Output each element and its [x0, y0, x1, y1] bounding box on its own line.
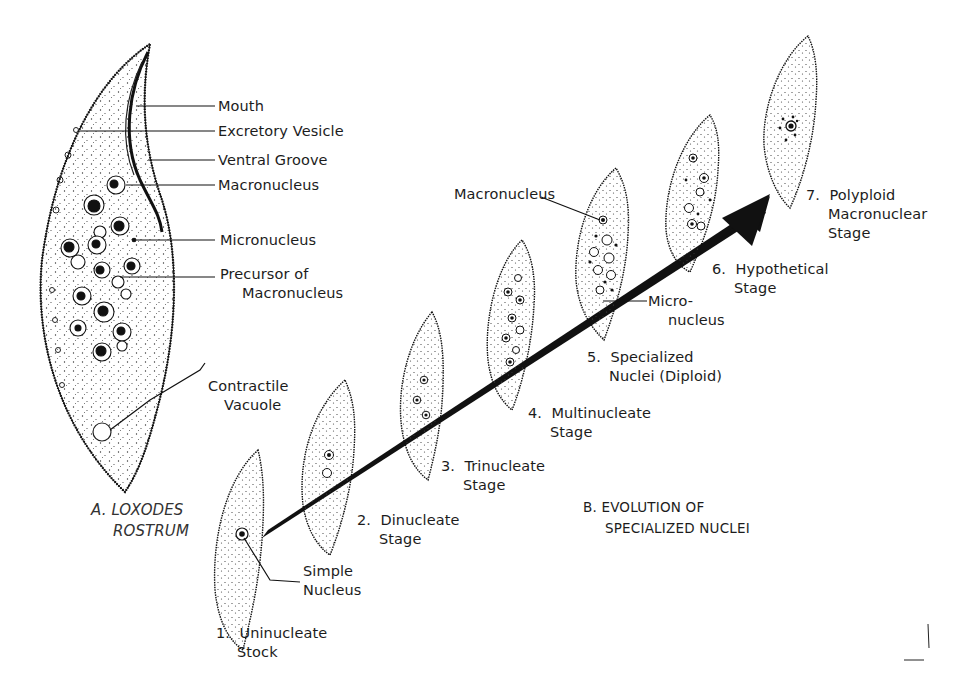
part-a-title-line1: A. LOXODES: [91, 500, 189, 521]
label-contractile-vacuole: Contractile Vacuole: [208, 377, 288, 415]
label-simple-nucleus: Simple Nucleus: [303, 562, 361, 600]
label-macronucleus-b: Macronucleus: [454, 185, 555, 204]
stage-6-line2: Stage: [712, 279, 829, 298]
part-b-title: B. EVOLUTION OF SPECIALIZED NUCLEI: [583, 497, 750, 539]
stage-1-line2: Stock: [216, 643, 327, 662]
contractile-line2: Vacuole: [208, 396, 288, 415]
stage-4-organism: [487, 240, 534, 410]
label-mouth: Mouth: [218, 97, 264, 116]
stage-2-line2: Stage: [357, 530, 459, 549]
stage-3-line1: Trinucleate: [464, 458, 545, 474]
label-precursor-of-macronucleus: Precursor of Macronucleus: [220, 265, 343, 303]
stage-2-label: 2. Dinucleate Stage: [357, 511, 459, 549]
diagram-canvas: [0, 0, 972, 688]
simple-nucleus-line2: Nucleus: [303, 581, 361, 600]
stage-6-line1: Hypothetical: [735, 261, 828, 277]
stage-5-line2: Nuclei (Diploid): [587, 367, 722, 386]
stage-5-label: 5. Specialized Nuclei (Diploid): [587, 348, 722, 386]
stage-6-label: 6. Hypothetical Stage: [712, 260, 829, 298]
stage-4-number: 4.: [528, 405, 542, 421]
part-a-title-line2: ROSTRUM: [91, 521, 189, 542]
stage-7-line1: Polyploid: [829, 187, 895, 203]
stage-7-line3: Stage: [806, 224, 927, 243]
stage-6-number: 6.: [712, 261, 726, 277]
micronucleus-line2: nucleus: [648, 311, 725, 330]
stage-4-label: 4. Multinucleate Stage: [528, 404, 651, 442]
stage-1-label: 1. Uninucleate Stock: [216, 624, 327, 662]
label-macronucleus-a: Macronucleus: [218, 176, 319, 195]
stage-1-number: 1.: [216, 625, 230, 641]
stage-5-number: 5.: [587, 349, 601, 365]
contractile-line1: Contractile: [208, 377, 288, 396]
label-excretory-vesicle: Excretory Vesicle: [218, 122, 344, 141]
stage-5-line1: Specialized: [610, 349, 693, 365]
stage-4-line2: Stage: [528, 423, 651, 442]
part-b-title-line2: SPECIALIZED NUCLEI: [583, 518, 750, 539]
stage-1-organism: [215, 450, 300, 650]
part-b-title-line1: B. EVOLUTION OF: [583, 497, 750, 518]
stage-7-line2: Macronuclear: [806, 205, 927, 224]
stage-2-number: 2.: [357, 512, 371, 528]
stage-2-organism: [302, 380, 355, 555]
precursor-line1: Precursor of: [220, 265, 343, 284]
stage-5-organism: [541, 168, 647, 340]
stage-1-line1: Uninucleate: [239, 625, 327, 641]
stage-3-number: 3.: [441, 458, 455, 474]
stage-3-line2: Stage: [441, 476, 545, 495]
loxodes-rostrum-organism: [41, 44, 174, 492]
precursor-line2: Macronucleus: [220, 284, 343, 303]
stage-3-organism: [400, 312, 443, 480]
simple-nucleus-line1: Simple: [303, 562, 361, 581]
part-a-title: A. LOXODES ROSTRUM: [91, 500, 189, 542]
corner-marks: [904, 624, 929, 660]
label-ventral-groove: Ventral Groove: [218, 151, 328, 170]
stage-4-line1: Multinucleate: [551, 405, 651, 421]
stage-7-label: 7. Polyploid Macronuclear Stage: [806, 186, 927, 243]
stage-7-organism: [764, 36, 817, 208]
stage-2-line1: Dinucleate: [380, 512, 459, 528]
label-micronucleus-a: Micronucleus: [220, 231, 316, 250]
stage-3-label: 3. Trinucleate Stage: [441, 457, 545, 495]
stage-7-number: 7.: [806, 187, 820, 203]
